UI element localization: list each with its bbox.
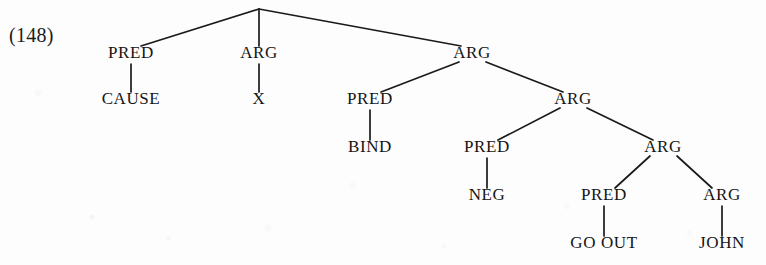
figure-canvas: (148) PREDARGARGCAUSEXPREDARGBINDPREDARG… (0, 0, 766, 265)
tree-node-label: PRED (581, 185, 627, 204)
tree-branch (615, 156, 650, 188)
tree-branch (141, 9, 259, 46)
tree-branch (677, 156, 712, 188)
tree-leaf-label: X (253, 89, 266, 108)
tree-node-label: PRED (108, 43, 154, 62)
tree-branch-group (131, 9, 722, 236)
tree-node-label: ARG (644, 137, 682, 156)
tree-leaf-label: GO OUT (570, 233, 637, 252)
tree-node-label: PRED (347, 89, 393, 108)
tree-node-label: PRED (464, 137, 510, 156)
tree-leaf-label: CAUSE (102, 89, 161, 108)
tree-leaf-label: JOHN (699, 233, 745, 252)
tree-branch (587, 108, 653, 140)
tree-branch (486, 62, 563, 92)
tree-node-label: ARG (240, 43, 278, 62)
tree-node-label: ARG (453, 43, 491, 62)
tree-branch (259, 9, 461, 46)
tree-branch (498, 108, 560, 140)
tree-node-group: PREDARGARGCAUSEXPREDARGBINDPREDARGNEGPRE… (102, 43, 745, 252)
tree-node-label: ARG (554, 89, 592, 108)
tree-leaf-label: NEG (469, 185, 506, 204)
tree-node-label: ARG (703, 185, 741, 204)
tree-branch (381, 62, 459, 92)
tree-leaf-label: BIND (348, 137, 392, 156)
tree-diagram: PREDARGARGCAUSEXPREDARGBINDPREDARGNEGPRE… (0, 0, 766, 265)
